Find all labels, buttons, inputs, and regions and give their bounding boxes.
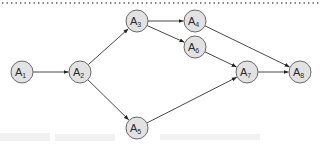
node-a2: A2 <box>69 61 91 83</box>
edge-a2-to-a5 <box>88 80 129 120</box>
edge-a2-to-a3 <box>88 29 128 65</box>
node-a1: A1 <box>11 61 33 83</box>
node-a3: A3 <box>126 10 148 32</box>
node-a5: A5 <box>126 117 148 139</box>
node-a7: A7 <box>236 61 258 83</box>
nodes-layer: A1A2A3A4A5A6A7A8 <box>11 10 311 139</box>
node-a6: A6 <box>184 36 206 58</box>
edge-a3-to-a6 <box>147 26 185 43</box>
precedence-graph: A1A2A3A4A5A6A7A8 <box>0 0 322 144</box>
node-a8: A8 <box>289 61 311 83</box>
edge-a5-to-a7 <box>147 77 237 123</box>
edge-a6-to-a7 <box>205 52 237 67</box>
node-a4: A4 <box>184 10 206 32</box>
